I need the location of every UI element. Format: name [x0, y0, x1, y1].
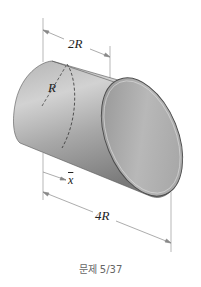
label-4R: 4R [95, 209, 109, 222]
cylinder-figure: 2R R x 4R [0, 0, 201, 287]
centroid-arrow [43, 172, 66, 180]
label-xbar: x [68, 174, 73, 186]
label-2R: 2R [68, 37, 82, 50]
label-R: R [48, 81, 56, 94]
cylinder-diagram [0, 0, 201, 287]
figure-caption: 문제 5/37 [0, 261, 201, 276]
